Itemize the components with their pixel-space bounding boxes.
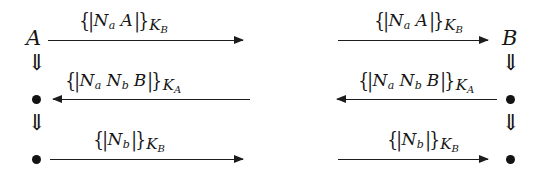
term-principal-a: A [120, 10, 132, 30]
key-label-ka: KA [162, 76, 181, 94]
message-arrow-2 [53, 95, 250, 105]
message-label-3: {|Nb|}KB [386, 129, 459, 154]
arrow-shaft [338, 40, 488, 41]
term-nonce-na: Na [93, 10, 115, 30]
arrow-head-right-icon [234, 155, 244, 163]
arrow-head-right-icon [234, 36, 244, 44]
encrypt-open-bracket: {| [93, 129, 106, 149]
arrow-shaft [53, 99, 250, 100]
message-arrow-3 [50, 155, 243, 165]
node-dot-icon [32, 95, 41, 104]
encrypt-close-bracket: |} [147, 70, 160, 90]
double-down-arrow-icon: ⇓ [26, 52, 48, 74]
arrow-head-right-icon [479, 36, 489, 44]
key-label-kb: KB [148, 16, 168, 34]
arrow-shaft [50, 159, 243, 160]
term-principal-b: B [134, 70, 147, 90]
arrow-shaft [337, 99, 497, 100]
term-principal-b: B [427, 70, 440, 90]
term-nonce-nb: Nb [106, 70, 128, 90]
encrypt-close-bracket: |} [425, 129, 438, 149]
key-label-kb: KB [145, 135, 165, 153]
message-arrow-1 [48, 36, 243, 46]
lifeline-right: ⇓ ⇓ [500, 0, 522, 176]
term-principal-a: A [415, 10, 427, 30]
message-label-3: {|Nb|}KB [92, 129, 165, 154]
term-nonce-na: Na [79, 70, 101, 90]
arrow-head-left-icon [52, 95, 62, 103]
double-down-arrow-icon: ⇓ [500, 112, 522, 134]
node-dot-icon [32, 155, 41, 164]
arrow-head-left-icon [336, 95, 346, 103]
encrypt-open-bracket: {| [358, 70, 371, 90]
lifeline-left: ⇓ ⇓ [26, 0, 48, 176]
term-nonce-nb: Nb [401, 129, 423, 149]
message-arrow-1 [338, 36, 488, 46]
arrow-shaft [48, 40, 243, 41]
sequence-panel-right: B ⇓ ⇓ {|NaA|}KB {|NaNbB|}KA {|Nb|}KB [276, 0, 552, 176]
term-nonce-na: Na [372, 70, 394, 90]
arrow-shaft [338, 159, 488, 160]
sequence-panel-left: A ⇓ ⇓ {|NaA|}KB {|NaNbB|}KA {|Nb|}KB [0, 0, 276, 176]
encrypt-open-bracket: {| [374, 10, 387, 30]
encrypt-close-bracket: |} [134, 10, 147, 30]
node-dot-icon [506, 95, 515, 104]
encrypt-open-bracket: {| [65, 70, 78, 90]
double-down-arrow-icon: ⇓ [500, 52, 522, 74]
encrypt-close-bracket: |} [131, 129, 144, 149]
message-label-1: {|NaA|}KB [78, 10, 168, 35]
encrypt-open-bracket: {| [387, 129, 400, 149]
message-label-1: {|NaA|}KB [373, 10, 463, 35]
term-nonce-nb: Nb [399, 70, 421, 90]
arrow-head-right-icon [479, 155, 489, 163]
message-label-2: {|NaNbB|}KA [64, 70, 181, 95]
double-down-arrow-icon: ⇓ [26, 112, 48, 134]
encrypt-close-bracket: |} [429, 10, 442, 30]
encrypt-open-bracket: {| [79, 10, 92, 30]
protocol-message-sequence-diagram: A ⇓ ⇓ {|NaA|}KB {|NaNbB|}KA {|Nb|}KB [0, 0, 552, 176]
key-label-kb: KB [443, 16, 463, 34]
message-arrow-2 [337, 95, 497, 105]
encrypt-close-bracket: |} [440, 70, 453, 90]
message-arrow-3 [338, 155, 488, 165]
message-label-2: {|NaNbB|}KA [357, 70, 474, 95]
term-nonce-nb: Nb [107, 129, 129, 149]
key-label-ka: KA [455, 76, 474, 94]
node-dot-icon [506, 155, 515, 164]
term-nonce-na: Na [388, 10, 410, 30]
key-label-kb: KB [439, 135, 459, 153]
